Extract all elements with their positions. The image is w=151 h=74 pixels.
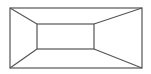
diagonal-top-left [10, 8, 37, 24]
diagram-canvas [0, 0, 151, 74]
perspective-room-icon [0, 0, 151, 74]
inner-rectangle [37, 24, 94, 49]
outer-rectangle [10, 8, 142, 68]
diagonal-bottom-left [10, 49, 37, 68]
diagonal-top-right [94, 8, 142, 24]
diagonal-bottom-right [94, 49, 142, 68]
